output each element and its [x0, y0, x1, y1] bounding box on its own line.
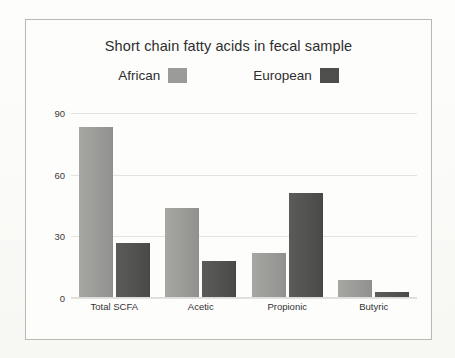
plot-wrapper: 0306090 Total SCFAAceticPropionicButyric [26, 20, 431, 339]
y-axis-tick-0: 0 [60, 293, 65, 304]
bar-group-total-scfa [71, 113, 158, 298]
x-axis-label-butyric: Butyric [331, 301, 418, 312]
bar-european-acetic[interactable] [202, 261, 236, 298]
gridline-0 [71, 298, 417, 299]
y-axis-tick-90: 90 [54, 108, 65, 119]
x-axis-labels: Total SCFAAceticPropionicButyric [71, 301, 417, 312]
chart-frame: Short chain fatty acids in fecal sample … [25, 19, 432, 340]
axis-baseline [71, 297, 417, 298]
bar-group-propionic [244, 113, 331, 298]
bar-group-butyric [331, 113, 418, 298]
x-axis-label-propionic: Propionic [244, 301, 331, 312]
x-axis-label-acetic: Acetic [158, 301, 245, 312]
y-axis-tick-60: 60 [54, 169, 65, 180]
bar-african-propionic[interactable] [252, 253, 286, 298]
bar-african-total-scfa[interactable] [79, 127, 113, 298]
bar-european-total-scfa[interactable] [116, 243, 150, 299]
bar-group-acetic [158, 113, 245, 298]
bar-groups [71, 113, 417, 298]
x-axis-label-total-scfa: Total SCFA [71, 301, 158, 312]
y-axis-tick-30: 30 [54, 231, 65, 242]
bar-african-acetic[interactable] [165, 208, 199, 298]
plot-area: 0306090 [71, 113, 417, 298]
bar-african-butyric[interactable] [338, 280, 372, 299]
bar-european-propionic[interactable] [289, 193, 323, 298]
